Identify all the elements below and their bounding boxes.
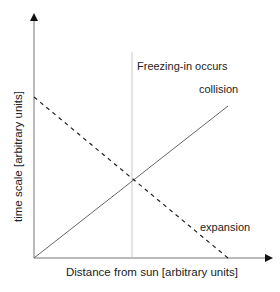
x-axis-label: Distance from sun [arbitrary units] [66,266,238,278]
diagram-canvas [0,0,280,292]
collision-line [34,106,228,258]
y-axis-label: time scale [arbitrary units] [12,91,24,222]
y-axis-arrow-icon [30,13,38,21]
expansion-line [34,97,228,258]
x-axis-arrow-icon [265,254,273,262]
expansion-label: expansion [200,221,250,233]
collision-label: collision [199,83,238,95]
freezing-in-label: Freezing-in occurs [137,60,227,72]
